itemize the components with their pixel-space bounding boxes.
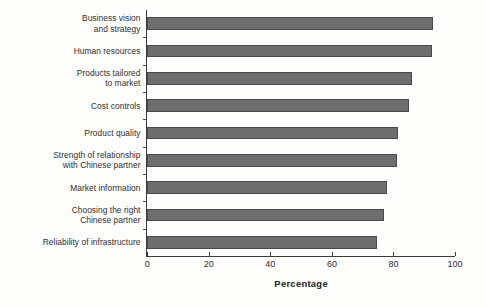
category-label: Cost controls xyxy=(3,101,141,111)
y-axis-tick xyxy=(143,147,147,148)
x-axis-title: Percentage xyxy=(147,278,455,289)
x-axis-tick xyxy=(270,252,271,256)
x-axis-tick-label: 40 xyxy=(265,259,275,269)
bar xyxy=(147,127,398,140)
x-axis-tick xyxy=(455,252,456,256)
bar xyxy=(147,209,384,222)
bar xyxy=(147,17,433,30)
y-axis-tick xyxy=(143,37,147,38)
x-axis-tick xyxy=(332,252,333,256)
bar-track xyxy=(147,229,376,256)
y-axis-tick xyxy=(143,201,147,202)
chart-row: Choosing the right Chinese partner xyxy=(0,201,486,228)
category-label: Market information xyxy=(3,183,141,193)
chart-row: Business vision and strategy xyxy=(0,10,486,37)
bar xyxy=(147,72,412,85)
bar-track xyxy=(147,147,396,174)
bar-track xyxy=(147,92,409,119)
bar xyxy=(147,154,396,167)
bar-track xyxy=(147,37,432,64)
category-label: Product quality xyxy=(3,128,141,138)
bar xyxy=(147,181,387,194)
y-axis-tick xyxy=(143,119,147,120)
chart-row: Market information xyxy=(0,174,486,201)
bar xyxy=(147,99,409,112)
x-axis-tick-label: 80 xyxy=(388,259,398,269)
category-label: Business vision and strategy xyxy=(3,13,141,33)
bar-track xyxy=(147,119,398,146)
y-axis-tick xyxy=(143,174,147,175)
category-label: Products tailored to market xyxy=(3,68,141,88)
chart-row: Cost controls xyxy=(0,92,486,119)
bar-track xyxy=(147,174,387,201)
x-axis-tick xyxy=(147,252,148,256)
chart-row: Strength of relationship with Chinese pa… xyxy=(0,147,486,174)
x-axis-tick-label: 60 xyxy=(327,259,337,269)
chart-row: Product quality xyxy=(0,119,486,146)
x-axis-tick-label: 100 xyxy=(447,259,462,269)
category-label: Choosing the right Chinese partner xyxy=(3,205,141,225)
bar-track xyxy=(147,65,412,92)
category-label: Reliability of infrastructure xyxy=(3,237,141,247)
y-axis-tick xyxy=(143,229,147,230)
x-axis-tick xyxy=(393,252,394,256)
bar-track xyxy=(147,201,384,228)
chart-row: Human resources xyxy=(0,37,486,64)
category-label: Human resources xyxy=(3,46,141,56)
chart-rows: Business vision and strategyHuman resour… xyxy=(0,10,486,256)
category-label: Strength of relationship with Chinese pa… xyxy=(3,150,141,170)
x-axis-tick xyxy=(209,252,210,256)
y-axis-tick xyxy=(143,65,147,66)
x-axis-tick-label: 20 xyxy=(204,259,214,269)
chart-row: Reliability of infrastructure xyxy=(0,229,486,256)
bar xyxy=(147,236,376,249)
x-axis-tick-label: 0 xyxy=(145,259,150,269)
bar xyxy=(147,45,432,58)
bar-chart: Business vision and strategyHuman resour… xyxy=(0,0,486,307)
bar-track xyxy=(147,10,433,37)
chart-row: Products tailored to market xyxy=(0,65,486,92)
y-axis-tick xyxy=(143,92,147,93)
